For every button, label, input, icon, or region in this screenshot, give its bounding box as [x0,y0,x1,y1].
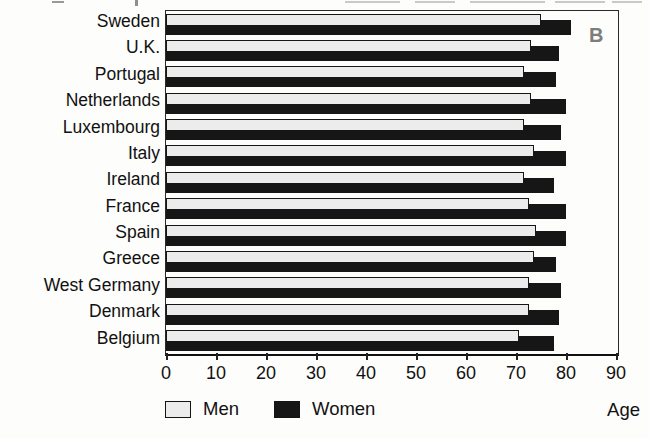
legend-women-label: Women [312,398,375,420]
men-bar [166,330,519,342]
category-label: Denmark [0,303,160,321]
legend-men-label: Men [203,398,239,420]
x-tick-label: 50 [396,363,436,384]
x-tick-label: 10 [196,363,236,384]
x-tick-mark [416,353,418,360]
category-label: Greece [0,250,160,268]
men-bar [166,119,524,131]
legend-entry-women: Women [274,398,375,420]
category-label: France [0,198,160,216]
x-tick-mark [166,353,168,360]
men-swatch [165,401,191,418]
men-bar [166,172,524,184]
x-tick-mark [566,353,568,360]
category-label: Luxembourg [0,119,160,137]
men-bar [166,14,541,26]
x-tick-mark [366,353,368,360]
artifact-dash [135,0,138,6]
artifact-dash [470,1,545,3]
x-tick-mark [216,353,218,360]
x-tick-label: 60 [446,363,486,384]
x-tick-mark [466,353,468,360]
category-label: Sweden [0,13,160,31]
artifact-dash [555,1,605,3]
x-tick-mark [516,353,518,360]
men-bar [166,251,534,263]
men-bar [166,277,529,289]
artifact-dash [415,1,455,3]
category-label: Portugal [0,66,160,84]
category-label: Italy [0,145,160,163]
category-label: Spain [0,224,160,242]
men-bar [166,304,529,316]
legend-entry-men: Men [165,398,239,420]
men-bar [166,66,524,78]
plot-area [165,10,619,356]
men-bar [166,225,536,237]
figure-panel-label: B [589,24,604,47]
chart-figure: SwedenU.K.PortugalNetherlandsLuxembourgI… [0,0,649,439]
category-label: West Germany [0,277,160,295]
x-tick-label: 70 [496,363,536,384]
men-bar [166,198,529,210]
artifact-dash [52,1,64,3]
men-bar [166,93,531,105]
x-tick-mark [316,353,318,360]
artifact-dash [612,1,642,3]
x-tick-mark [266,353,268,360]
axis-unit-label: Age [560,399,640,421]
x-tick-label: 90 [596,363,636,384]
men-bar [166,145,534,157]
category-label: Ireland [0,171,160,189]
category-label: U.K. [0,39,160,57]
x-tick-label: 0 [146,363,186,384]
x-tick-label: 40 [346,363,386,384]
x-tick-label: 20 [246,363,286,384]
x-tick-label: 30 [296,363,336,384]
women-swatch [274,401,300,418]
category-label: Netherlands [0,92,160,110]
legend: Men Women [165,398,397,420]
x-tick-label: 80 [546,363,586,384]
x-tick-mark [616,353,618,360]
category-label: Belgium [0,330,160,348]
men-bar [166,40,531,52]
artifact-dash [345,1,400,3]
